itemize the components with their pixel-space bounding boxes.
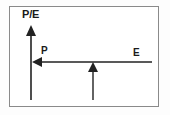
diagram-canvas: P/E P E <box>0 0 170 115</box>
pe-axis-label: P/E <box>22 9 39 20</box>
pe-vertical-arrowhead <box>26 25 36 36</box>
e-middle-arrowhead <box>88 62 98 72</box>
p-arrow-label: P <box>41 46 48 56</box>
p-horizontal-arrowhead <box>32 57 42 67</box>
e-line-label: E <box>133 48 140 58</box>
